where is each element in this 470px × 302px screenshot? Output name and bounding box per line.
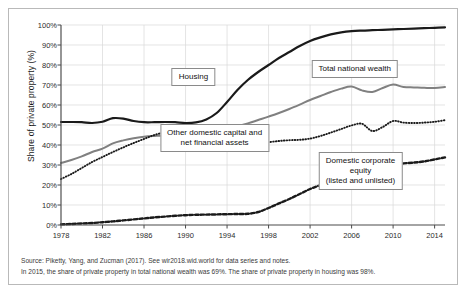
annotation-other-domestic-capital: Other domestic capital and net financial…	[160, 124, 269, 152]
x-tick-1982: 1982	[94, 231, 111, 240]
y-tick-20: 20%	[42, 181, 57, 190]
source-line: Source: Piketty, Yang, and Zucman (2017)…	[21, 256, 447, 267]
y-tick-50: 50%	[42, 121, 57, 130]
x-tick-1994: 1994	[219, 231, 236, 240]
y-tick-70: 70%	[42, 81, 57, 90]
x-tick-2010: 2010	[385, 231, 402, 240]
x-tick-1986: 1986	[136, 231, 153, 240]
x-tick-2014: 2014	[426, 231, 443, 240]
x-tick-2006: 2006	[343, 231, 360, 240]
x-tick-1978: 1978	[53, 231, 70, 240]
y-tick-30: 30%	[42, 161, 57, 170]
y-tick-60: 60%	[42, 101, 57, 110]
annotation-housing: Housing	[172, 68, 215, 86]
x-axis-tick-labels: 1978198219861990199419982002200620102014	[9, 231, 457, 247]
y-tick-90: 90%	[42, 41, 57, 50]
annotation-total-national-wealth: Total national wealth	[312, 60, 399, 78]
x-tick-1998: 1998	[260, 231, 277, 240]
y-tick-0: 0%	[46, 221, 57, 230]
plot-region: HousingTotal national wealthOther domest…	[61, 25, 445, 225]
x-tick-2002: 2002	[302, 231, 319, 240]
figure-frame: Share of private property (%) 0%10%20%30…	[8, 8, 458, 285]
y-axis-tick-labels: 0%10%20%30%40%50%60%70%80%90%100%	[23, 25, 57, 225]
chart-area: Share of private property (%) 0%10%20%30…	[9, 9, 457, 249]
x-tick-1990: 1990	[177, 231, 194, 240]
y-tick-10: 10%	[42, 201, 57, 210]
y-tick-100: 100%	[38, 21, 57, 30]
footer-notes: Source: Piketty, Yang, and Zucman (2017)…	[21, 256, 447, 278]
annotation-domestic-corporate-equity: Domestic corporate equity (listed and un…	[318, 152, 402, 190]
note-line: In 2015, the share of private property i…	[21, 267, 447, 278]
y-tick-80: 80%	[42, 61, 57, 70]
y-tick-40: 40%	[42, 141, 57, 150]
